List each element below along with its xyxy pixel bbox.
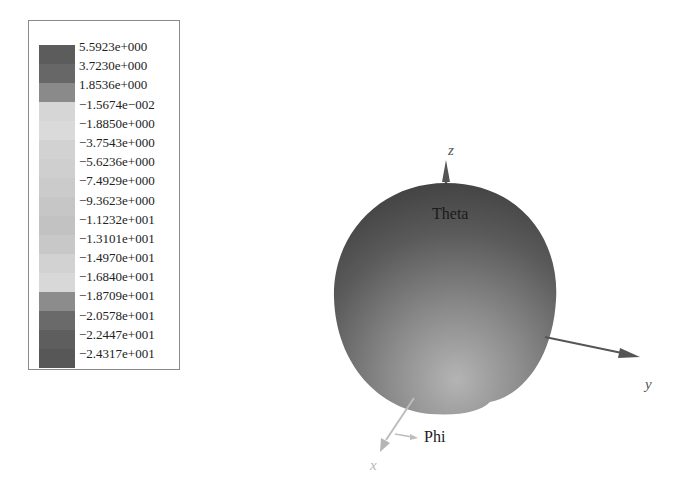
x-axis-label: x (370, 457, 377, 474)
y-axis-arrowhead (618, 348, 640, 358)
phi-arrow-line (395, 434, 412, 437)
theta-annotation: Theta (432, 205, 468, 223)
y-axis-label: y (645, 376, 652, 393)
phi-annotation: Phi (424, 428, 445, 446)
z-axis-label: z (448, 142, 454, 159)
y-axis-line (545, 337, 622, 353)
x-axis-arrowhead (380, 438, 390, 452)
radiation-pattern-plot (0, 0, 698, 487)
z-axis-arrowhead (442, 160, 450, 182)
phi-arrowhead (410, 434, 418, 440)
